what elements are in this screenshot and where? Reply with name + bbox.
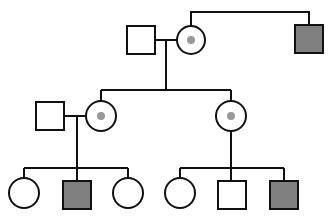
carrier-dot-icon <box>187 36 195 44</box>
male-unaffected-II-1 <box>36 102 64 130</box>
male-affected-III-6 <box>270 181 298 209</box>
carrier-dot-icon <box>227 112 235 120</box>
female-unaffected-III-3 <box>113 178 143 208</box>
pedigree-chart <box>0 0 329 222</box>
male-unaffected-III-5 <box>218 181 246 209</box>
male-affected-I-3 <box>295 25 323 53</box>
sibling-line-gen1 <box>191 12 309 26</box>
female-unaffected-III-4 <box>165 178 195 208</box>
male-unaffected-I-1 <box>127 26 155 54</box>
male-affected-III-2 <box>63 181 91 209</box>
female-unaffected-III-1 <box>9 178 39 208</box>
connector-lines <box>24 12 309 181</box>
carrier-dot-icon <box>97 112 105 120</box>
